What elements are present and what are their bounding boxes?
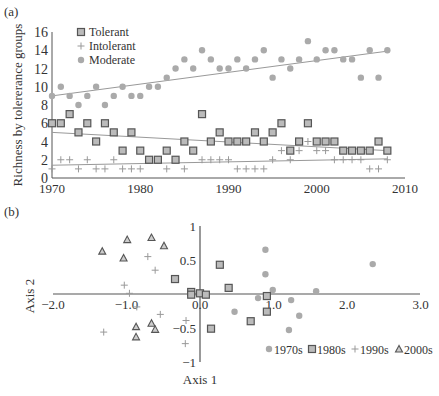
circle-marker (278, 56, 284, 62)
legend-label: 1990s (360, 343, 389, 357)
plus-marker (101, 165, 108, 172)
plus-marker (243, 165, 250, 172)
plus-marker (100, 329, 107, 336)
circle-marker (58, 84, 64, 90)
circle-marker (340, 56, 346, 62)
y-tick-label: 12 (34, 62, 48, 77)
plus-marker (384, 156, 391, 163)
plus-marker (121, 282, 128, 289)
legend-circle-icon (266, 346, 272, 352)
triangle-marker (160, 242, 167, 249)
square-marker (366, 147, 373, 154)
triangle-marker (133, 333, 140, 340)
square-marker (110, 129, 117, 136)
x-tick-label: 0.0 (192, 297, 208, 312)
circle-marker (93, 84, 99, 90)
circle-marker (181, 56, 187, 62)
square-marker (190, 147, 197, 154)
plus-marker (366, 165, 373, 172)
circle-marker (358, 74, 364, 80)
square-marker (287, 147, 294, 154)
legend-label: 1980s (317, 343, 346, 357)
square-marker (93, 138, 100, 145)
plus-marker (269, 156, 276, 163)
circle-marker (231, 308, 237, 314)
square-marker (263, 308, 270, 315)
plus-marker (163, 165, 170, 172)
legend-triangle-icon (396, 346, 403, 353)
x-tick-label: 3.0 (412, 297, 428, 312)
y-tick-label: 4 (41, 135, 48, 150)
triangle-marker (152, 326, 159, 333)
x-tick-label: −1.0 (115, 297, 139, 312)
panel-a-chart: (a) Richness by tolererance groups 02468… (4, 4, 418, 196)
plus-marker (234, 165, 241, 172)
y-tick-label: 16 (34, 25, 48, 40)
circle-marker (84, 93, 90, 99)
square-marker (251, 129, 258, 136)
square-marker (49, 120, 56, 127)
legend-circle-icon (78, 57, 84, 63)
legend: TolerantIntolerantModerate (78, 25, 137, 67)
square-marker (234, 138, 241, 145)
square-marker (331, 138, 338, 145)
circle-marker (286, 327, 292, 333)
legend-label: 1970s (274, 343, 303, 357)
square-marker (66, 111, 73, 118)
circle-marker (128, 93, 134, 99)
square-marker (278, 120, 285, 127)
plus-marker (110, 156, 117, 163)
plus-marker (304, 138, 311, 145)
y-tick-label: 1 (190, 219, 197, 234)
plus-marker (93, 165, 100, 172)
circle-marker (49, 93, 55, 99)
x-tick-label: 2.0 (339, 297, 355, 312)
circle-marker (252, 56, 258, 62)
plus-marker (287, 156, 294, 163)
legend-square-icon (78, 29, 85, 36)
plus-marker (260, 165, 267, 172)
square-marker (304, 120, 311, 127)
circle-marker (208, 56, 214, 62)
plus-marker (144, 253, 151, 260)
circle-marker (296, 313, 302, 319)
square-marker (208, 325, 215, 332)
circle-marker (190, 65, 196, 71)
square-marker (101, 120, 108, 127)
square-marker (260, 138, 267, 145)
square-marker (181, 138, 188, 145)
circle-marker (288, 297, 294, 303)
circle-marker (225, 65, 231, 71)
plus-marker (152, 267, 159, 274)
circle-marker (262, 271, 268, 277)
square-marker (188, 291, 195, 298)
circle-marker (322, 47, 328, 53)
square-marker (216, 261, 223, 268)
square-marker (137, 147, 144, 154)
circle-marker (137, 93, 143, 99)
y-tick-label: −0.5 (172, 321, 196, 336)
x-tick-label: 1980 (127, 181, 153, 196)
plus-marker (313, 147, 320, 154)
circle-marker (66, 93, 72, 99)
circle-marker (349, 56, 355, 62)
legend-label: Intolerant (89, 39, 136, 53)
circle-marker (102, 102, 108, 108)
panel-b-label: (b) (4, 204, 19, 219)
x-tick-labels: 19701980199020002010 (39, 181, 418, 196)
plus-marker (331, 156, 338, 163)
square-marker (154, 156, 161, 163)
circle-marker (75, 102, 81, 108)
triangle-marker (124, 236, 131, 243)
square-marker (146, 156, 153, 163)
plus-marker (349, 156, 356, 163)
plus-marker (75, 165, 82, 172)
circle-marker (370, 261, 376, 267)
circle-marker (262, 247, 268, 253)
circle-marker (375, 74, 381, 80)
legend-plus-icon (78, 43, 85, 50)
y-tick-label: 10 (34, 80, 48, 95)
plus-marker (66, 156, 73, 163)
legend: 1970s1980s1990s2000s (266, 343, 433, 357)
square-marker (269, 129, 276, 136)
